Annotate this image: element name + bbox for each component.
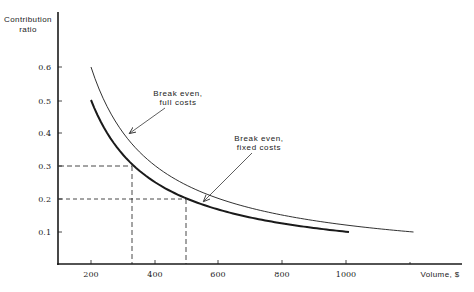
y-tick-label: 0.1	[38, 228, 51, 237]
y-tick-label: 0.3	[38, 162, 51, 171]
annotation-fixed-costs-line-2: fixed costs	[237, 143, 281, 152]
y-axis-title-line-1: Contribution	[4, 15, 52, 24]
x-tick-label: 1000	[336, 270, 356, 279]
y-tick-label: 0.6	[38, 63, 51, 72]
annotation-full-costs-line-2: full costs	[159, 98, 196, 107]
x-tick-label: 600	[210, 270, 225, 279]
reference-lines	[59, 166, 186, 264]
series-line-fixed-costs	[91, 100, 349, 232]
y-tick-label: 0.4	[38, 129, 51, 138]
y-axis-title-line-2: ratio	[19, 25, 37, 34]
y-tick-label: 0.2	[38, 195, 51, 204]
annotation-arrow-full-costs	[130, 108, 165, 133]
chart: Contribution ratio 0.6 0.5 0.4 0.3 0.2 0…	[0, 0, 474, 292]
x-tick-label: 800	[274, 270, 289, 279]
annotation-fixed-costs-line-1: Break even,	[234, 134, 283, 143]
annotation-arrow-fixed-costs	[204, 153, 252, 201]
annotation-full-costs-line-1: Break even,	[153, 89, 202, 98]
x-tick-label: 200	[83, 270, 98, 279]
x-tick-label: 400	[147, 270, 162, 279]
y-tick-label: 0.5	[38, 97, 51, 106]
x-axis-title: Volume, $	[420, 270, 459, 279]
